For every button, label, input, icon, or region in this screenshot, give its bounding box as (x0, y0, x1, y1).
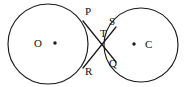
circle-o-center-dot (53, 41, 56, 44)
circle-c-center-dot (132, 42, 135, 45)
label-point-s: S (109, 16, 115, 27)
label-center-c: C (145, 39, 152, 50)
label-point-p: P (85, 6, 91, 17)
geometry-figure: O C P R S Q T (0, 0, 186, 87)
label-center-o: O (34, 38, 42, 49)
label-point-q: Q (109, 58, 117, 69)
label-point-t: T (100, 28, 107, 39)
label-point-r: R (85, 66, 92, 77)
geometry-canvas (0, 0, 186, 87)
circle-o-outline (8, 4, 88, 84)
